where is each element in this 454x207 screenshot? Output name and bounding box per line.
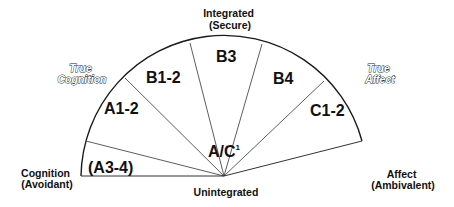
segment-label-b1-2: B1-2	[146, 69, 181, 86]
center-label-main: A/C	[208, 143, 236, 160]
segment-label-a1-2: A1-2	[104, 100, 139, 117]
pole-bottom-label: Unintegrated	[194, 186, 259, 198]
true-affect-line2: Affect	[364, 73, 395, 85]
segment-label-a3-4: (A3-4)	[88, 159, 133, 176]
pole-top-label: Integrated (Secure)	[203, 7, 257, 31]
pole-left-line2: (Avoidant)	[21, 178, 73, 190]
pole-right-line2: (Ambivalent)	[371, 179, 435, 191]
pole-right-label: Affect (Ambivalent)	[371, 168, 435, 191]
center-label-superscript: 1	[236, 143, 241, 152]
pole-top-line2: (Secure)	[209, 19, 251, 31]
true-cognition-line2: Cognition	[58, 73, 107, 85]
attachment-diagram: (A3-4) A1-2 B1-2 B3 B4 C1-2 A/C1 Integra…	[0, 0, 454, 207]
divider-a1-b1	[125, 78, 224, 176]
divider-b4-c1	[224, 81, 324, 176]
segment-label-b4: B4	[273, 70, 294, 87]
pole-top-line1: Integrated	[203, 7, 254, 19]
right-edge-line	[224, 141, 362, 176]
segment-label-c1-2: C1-2	[310, 102, 345, 119]
true-cognition-label: True Cognition	[58, 62, 107, 85]
pole-left-label: Cognition (Avoidant)	[21, 167, 73, 190]
segment-label-b3: B3	[216, 48, 237, 65]
center-label: A/C1	[208, 143, 241, 160]
true-affect-label: True Affect	[364, 62, 395, 85]
